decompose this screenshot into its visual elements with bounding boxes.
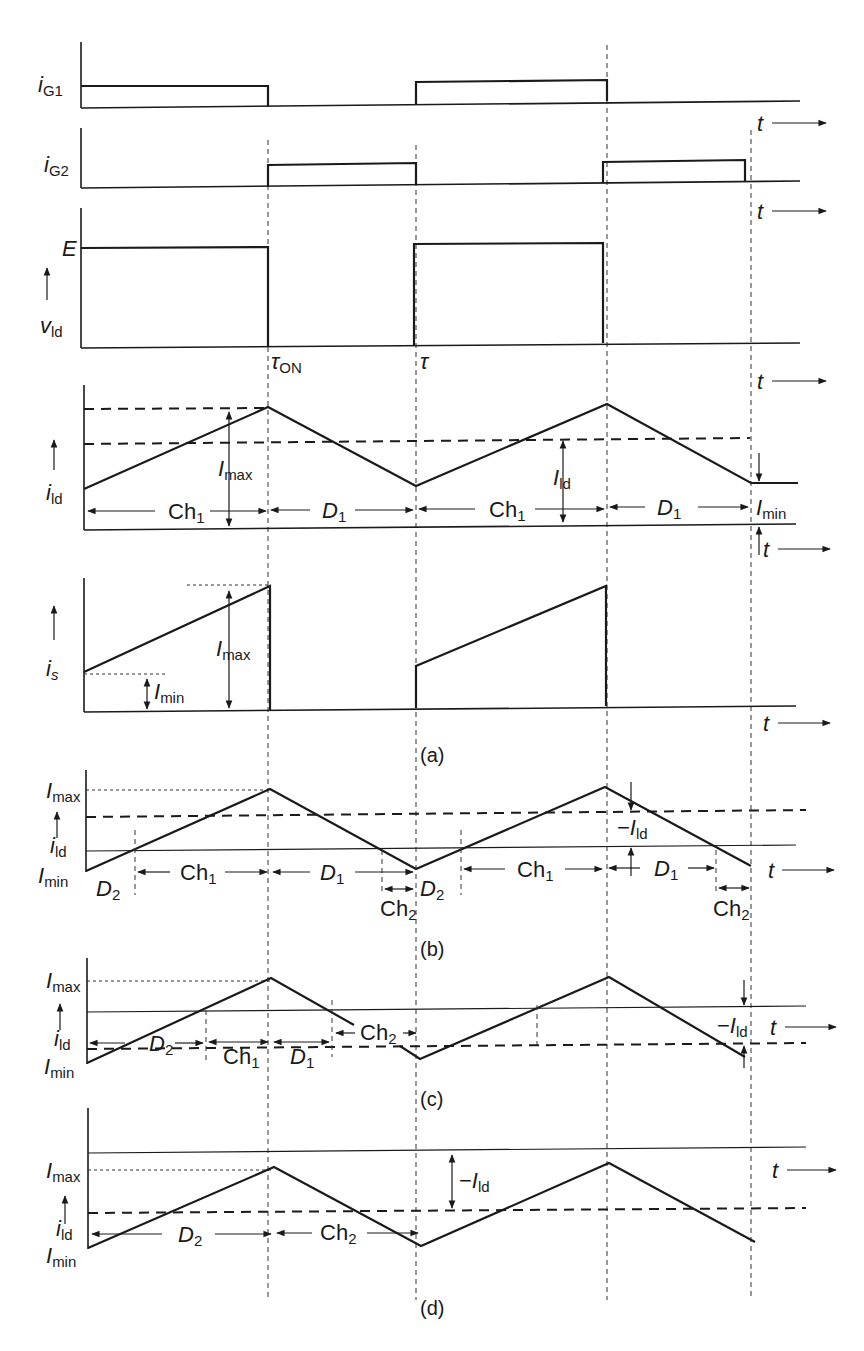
ild-axis-label: ild — [46, 480, 63, 507]
t-axis-arrow: t — [757, 111, 826, 136]
interval-d1: D1 — [609, 856, 714, 883]
t-axis-arrow: t — [763, 537, 830, 562]
imax-label: Imax — [46, 778, 81, 805]
interval-ch1: Ch1 — [88, 499, 266, 526]
interval-ch1: Ch1 — [138, 860, 267, 887]
svg-text:t: t — [768, 858, 775, 883]
svg-text:Ch2: Ch2 — [360, 1020, 396, 1047]
svg-text:t: t — [772, 1158, 779, 1183]
imax-label: Imax — [216, 636, 251, 663]
imin-label: Imin — [46, 1243, 76, 1270]
t-axis-arrow: t — [770, 1015, 836, 1040]
interval-d1: D1 — [271, 498, 413, 525]
panel-d: Imax ild Imin −Ild D2 Ch2 t (d) — [46, 1108, 836, 1319]
svg-text:D2: D2 — [149, 1031, 173, 1058]
tau-on-label: τON — [271, 349, 302, 376]
svg-text:Ch1: Ch1 — [223, 1044, 259, 1071]
interval-ch2: Ch2 — [336, 1020, 416, 1047]
tau-label: τ — [420, 349, 430, 374]
interval-ch2: Ch2 — [277, 1220, 418, 1247]
svg-text:t: t — [763, 711, 770, 736]
svg-text:D1: D1 — [654, 856, 678, 883]
imin-label: Imin — [154, 679, 184, 706]
svg-text:Ch1: Ch1 — [180, 860, 216, 887]
interval-ch1: Ch1 — [464, 857, 602, 884]
svg-text:Ch2: Ch2 — [320, 1220, 356, 1247]
ild-axis-label: ild — [50, 833, 67, 860]
imin-label: Imin — [44, 1054, 74, 1081]
svg-text:t: t — [757, 111, 764, 136]
caption-a: (a) — [420, 744, 444, 766]
svg-text:Ch1: Ch1 — [168, 499, 204, 526]
svg-text:t: t — [770, 1015, 777, 1040]
interval-ch1: Ch1 — [419, 497, 604, 524]
imax-label: Imax — [218, 456, 253, 483]
interval-d1: D1 — [610, 495, 748, 522]
panel-ig1: iG1 t — [38, 42, 826, 136]
panel-b: Imax ild Imin D2 Ch1 D1 Ch2 D2 Ch1 D1 Ch — [38, 770, 834, 960]
svg-text:t: t — [757, 369, 764, 394]
chopper-waveform-figure: iG1 t iG2 t E vld τON τ t — [0, 0, 864, 1351]
ild-axis-label: ild — [56, 1216, 73, 1243]
svg-text:Ch1: Ch1 — [489, 497, 525, 524]
svg-text:D2: D2 — [178, 1222, 202, 1249]
panel-c: Imax ild Imin D2 Ch1 D1 Ch2 −Ild t (c — [44, 958, 836, 1110]
neg-ild-label: −Ild — [459, 1168, 490, 1195]
imax-label: Imax — [46, 1158, 81, 1185]
imax-label: Imax — [46, 968, 81, 995]
ild-label: Ild — [553, 465, 571, 492]
svg-text:D1: D1 — [657, 495, 681, 522]
t-axis-arrow: t — [757, 369, 826, 394]
t-axis-arrow: t — [763, 711, 830, 736]
interval-d1: D1 — [273, 860, 413, 887]
is-axis-label: is — [46, 656, 59, 683]
t-axis-arrow: t — [772, 1158, 836, 1183]
interval-ch1: Ch1 — [209, 1042, 268, 1071]
imin-label: Imin — [38, 863, 68, 890]
imin-label: Imin — [756, 495, 786, 522]
caption-c: (c) — [420, 1088, 443, 1110]
t-axis-arrow: t — [757, 199, 826, 224]
svg-text:D1: D1 — [322, 498, 346, 525]
interval-d1: D1 — [274, 1042, 329, 1071]
panel-is: Imax Imin is t (a) — [46, 578, 830, 766]
interval-d2-label: D2 — [420, 876, 444, 903]
svg-text:Ch1: Ch1 — [517, 857, 553, 884]
interval-ch2-label: Ch2 — [380, 896, 416, 923]
t-axis-arrow: t — [768, 858, 834, 883]
vld-label: vld — [40, 313, 63, 340]
panel-vld: E vld τON τ t — [40, 208, 826, 394]
ig2-label: iG2 — [44, 152, 69, 179]
neg-ild-label: −Ild — [617, 815, 648, 842]
interval-d2-label: D2 — [96, 876, 120, 903]
interval-ch2-label: Ch2 — [713, 896, 749, 923]
svg-text:t: t — [763, 537, 770, 562]
panel-ig2: iG2 t — [44, 128, 826, 224]
panel-ild-a: Imax Ild Imin ild Ch1 D1 Ch1 D1 — [46, 385, 830, 562]
level-E-label: E — [62, 236, 77, 261]
time-guide-lines — [268, 45, 751, 1300]
neg-ild-label: −Ild — [717, 1013, 748, 1040]
caption-d: (d) — [420, 1297, 444, 1319]
ild-axis-label: ild — [54, 1026, 71, 1053]
svg-text:t: t — [757, 199, 764, 224]
caption-b: (b) — [420, 938, 444, 960]
svg-text:D1: D1 — [320, 860, 344, 887]
ig1-label: iG1 — [38, 72, 63, 99]
